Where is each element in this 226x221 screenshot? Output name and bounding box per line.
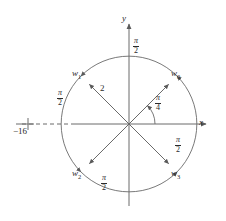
root-label-w1-index: 1 xyxy=(78,73,81,80)
y-axis-label: y xyxy=(122,14,126,23)
figure-canvas xyxy=(0,0,226,221)
root-label-w3: w3 xyxy=(171,169,180,180)
angle-label-pi-over-4: π 4 xyxy=(155,94,161,112)
angle-label-pi-over-4-denominator: 4 xyxy=(155,104,161,112)
minus-sixteen-label: −16 xyxy=(13,127,27,136)
root-label-w0-index: 0 xyxy=(177,73,180,80)
angle-arc-pi-over-4 xyxy=(147,106,155,124)
arc-label-top-numerator: π xyxy=(133,37,139,45)
arc-label-right-pi-over-2: π 2 xyxy=(175,136,181,154)
root-label-w2-index: 2 xyxy=(78,173,81,180)
arc-label-top-denominator: 2 xyxy=(133,47,139,55)
vector-w0 xyxy=(129,84,169,124)
argand-diagram-figure: x y −16 2 w0 w1 w2 w3 π 4 π 2 π 2 π 2 π … xyxy=(0,0,226,221)
arc-label-right-numerator: π xyxy=(175,136,181,144)
arc-label-left-pi-over-2: π 2 xyxy=(57,89,63,107)
root-label-w2: w2 xyxy=(72,169,81,180)
arc-label-top-pi-over-2: π 2 xyxy=(133,37,139,55)
radius-label: 2 xyxy=(100,84,105,93)
arc-label-bottom-numerator: π xyxy=(101,174,107,182)
arc-label-left-numerator: π xyxy=(57,89,63,97)
arc-label-right-denominator: 2 xyxy=(175,146,181,154)
x-axis-label: x xyxy=(199,118,203,127)
vector-w1 xyxy=(89,84,129,124)
root-label-w3-index: 3 xyxy=(177,173,180,180)
vector-w3 xyxy=(129,124,169,164)
arc-label-bottom-denominator: 2 xyxy=(101,184,107,192)
arc-label-bottom-pi-over-2: π 2 xyxy=(101,174,107,192)
root-label-w1: w1 xyxy=(72,69,81,80)
arc-label-left-denominator: 2 xyxy=(57,99,63,107)
angle-label-pi-over-4-numerator: π xyxy=(155,94,161,102)
root-label-w0: w0 xyxy=(171,69,180,80)
vector-w2 xyxy=(89,124,129,164)
